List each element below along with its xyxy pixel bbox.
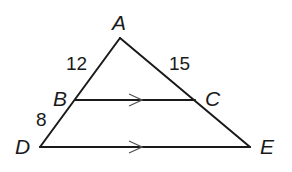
vertex-label-C: C (205, 87, 221, 110)
vertex-label-D: D (15, 135, 30, 158)
length-label-BD: 8 (36, 109, 47, 130)
triangle-diagram: A B C D E 12 15 8 (0, 0, 292, 172)
length-label-AC: 15 (169, 53, 190, 74)
vertex-label-A: A (110, 11, 126, 34)
vertex-label-E: E (260, 135, 275, 158)
vertex-label-B: B (53, 87, 67, 110)
length-label-AB: 12 (66, 53, 87, 74)
